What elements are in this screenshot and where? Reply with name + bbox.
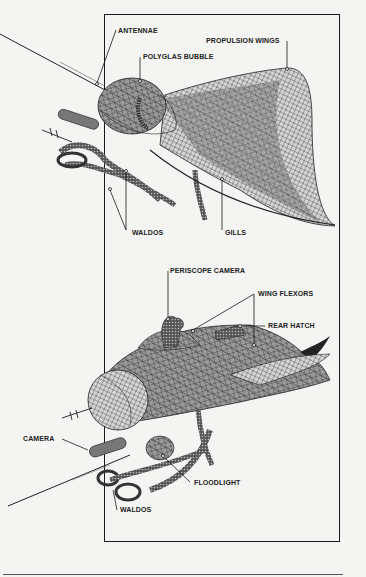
upper-creature <box>0 34 335 226</box>
label-antennae: ANTENNAE <box>118 27 158 35</box>
label-waldos-upper: WALDOS <box>132 229 163 237</box>
label-wing-flexors: WING FLEXORS <box>258 290 313 298</box>
label-waldos-lower: WALDOS <box>120 506 151 514</box>
label-camera: CAMERA <box>23 435 54 443</box>
creature-illustration <box>0 0 366 577</box>
label-gills: GILLS <box>225 229 246 237</box>
label-floodlight: FLOODLIGHT <box>194 479 241 487</box>
label-propulsion-wings: PROPULSION WINGS <box>206 37 280 45</box>
lower-creature <box>8 316 330 506</box>
label-polyglas-bubble: POLYGLAS BUBBLE <box>143 53 213 61</box>
label-periscope-camera: PERISCOPE CAMERA <box>170 267 245 275</box>
label-rear-hatch: REAR HATCH <box>268 322 315 330</box>
